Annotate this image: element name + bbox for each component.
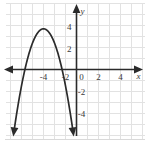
graph-figure: -4 -2 0 2 4 4 2 -2 -4 y x	[0, 0, 147, 146]
y-axis-label: y	[80, 6, 85, 16]
y-tick-label-neg4: -4	[78, 109, 86, 119]
x-tick-label-2: 2	[96, 72, 101, 82]
y-tick-label-2: 2	[67, 44, 72, 54]
y-tick-label-4: 4	[67, 22, 72, 32]
x-tick-label-zero: 0	[79, 72, 84, 82]
coordinate-plane: -4 -2 0 2 4 4 2 -2 -4 y x	[0, 0, 147, 146]
x-axis-label: x	[136, 71, 141, 81]
x-tick-label-neg4: -4	[40, 72, 48, 82]
y-tick-label-neg2: -2	[78, 87, 86, 97]
x-tick-label-4: 4	[118, 72, 123, 82]
